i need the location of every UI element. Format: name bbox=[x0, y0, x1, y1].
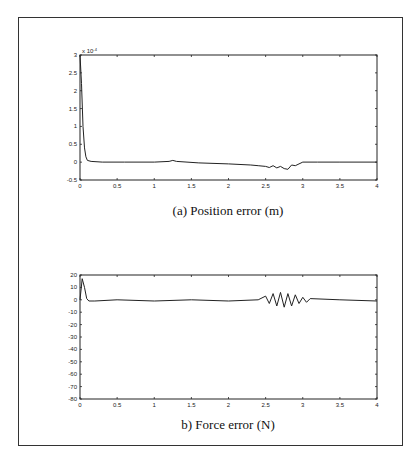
position-error-chart: 00.511.522.533.54 32.521.510.50-0.5 x 10… bbox=[67, 47, 380, 218]
x-tick-label: 1.5 bbox=[187, 183, 196, 189]
position-error-line bbox=[80, 55, 377, 169]
x-tick-label: 2.5 bbox=[261, 402, 270, 408]
y-tick-label: 2.5 bbox=[69, 70, 78, 76]
top-caption: (a) Position error (m) bbox=[173, 203, 284, 218]
top-x-axis-ticks: 00.511.522.533.54 bbox=[78, 55, 379, 189]
x-tick-label: 0 bbox=[78, 183, 82, 189]
x-tick-label: 1 bbox=[153, 402, 157, 408]
y-tick-label: 3 bbox=[74, 52, 78, 58]
y-tick-label: -80 bbox=[68, 396, 77, 402]
figure-svg: 00.511.522.533.54 32.521.510.50-0.5 x 10… bbox=[0, 0, 416, 461]
x-tick-label: 2 bbox=[227, 402, 231, 408]
y-tick-label: -10 bbox=[68, 309, 77, 315]
x-tick-label: 0.5 bbox=[113, 183, 122, 189]
x-tick-label: 2 bbox=[227, 183, 231, 189]
x-tick-label: 1.5 bbox=[187, 402, 196, 408]
x-tick-label: 3.5 bbox=[336, 402, 345, 408]
top-plot-area bbox=[80, 55, 377, 180]
y-tick-label: -0.5 bbox=[67, 177, 78, 183]
y-tick-label: 0 bbox=[74, 297, 78, 303]
force-error-line bbox=[80, 279, 377, 308]
y-tick-label: -70 bbox=[68, 384, 77, 390]
y-tick-label: 2 bbox=[74, 88, 78, 94]
x-tick-label: 0 bbox=[78, 402, 82, 408]
force-error-chart: 00.511.522.533.54 20100-10-20-30-40-50-6… bbox=[68, 272, 379, 432]
bottom-y-axis-ticks: 20100-10-20-30-40-50-60-70-80 bbox=[68, 272, 377, 402]
y-tick-label: -30 bbox=[68, 334, 77, 340]
y-tick-label: 20 bbox=[70, 272, 77, 278]
y-tick-label: -50 bbox=[68, 359, 77, 365]
x-tick-label: 0.5 bbox=[113, 402, 122, 408]
top-scale-label: x 10-4 bbox=[82, 47, 98, 54]
x-tick-label: 2.5 bbox=[261, 183, 270, 189]
x-tick-label: 4 bbox=[375, 183, 379, 189]
y-tick-label: 0.5 bbox=[69, 141, 78, 147]
y-tick-label: 0 bbox=[74, 159, 78, 165]
y-tick-label: -40 bbox=[68, 346, 77, 352]
x-tick-label: 3 bbox=[301, 183, 305, 189]
x-tick-label: 3 bbox=[301, 402, 305, 408]
y-tick-label: -20 bbox=[68, 322, 77, 328]
x-tick-label: 3.5 bbox=[336, 183, 345, 189]
x-tick-label: 4 bbox=[375, 402, 379, 408]
bottom-x-axis-ticks: 00.511.522.533.54 bbox=[78, 275, 379, 408]
x-tick-label: 1 bbox=[153, 183, 157, 189]
y-tick-label: -60 bbox=[68, 371, 77, 377]
bottom-plot-area bbox=[80, 275, 377, 399]
bottom-caption: b) Force error (N) bbox=[181, 417, 274, 432]
y-tick-label: 1.5 bbox=[69, 106, 78, 112]
y-tick-label: 1 bbox=[74, 123, 78, 129]
y-tick-label: 10 bbox=[70, 284, 77, 290]
